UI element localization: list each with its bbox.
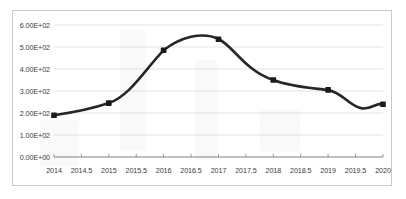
x-tick-label: 2014	[46, 166, 62, 175]
x-tick-label: 2015	[101, 166, 117, 175]
x-tick-label: 2018.5	[290, 166, 311, 175]
x-tick-label: 2018	[266, 166, 282, 175]
x-axis-labels: 2014 2014.5 2015 2015.5 2016 2016.5 2017…	[0, 0, 406, 199]
x-tick-label: 2019.5	[345, 166, 366, 175]
x-tick-label: 2016.5	[180, 166, 201, 175]
x-tick-label: 2016	[156, 166, 172, 175]
x-tick-label: 2017	[211, 166, 227, 175]
x-tick-label: 2015.5	[125, 166, 146, 175]
x-tick-label: 2014.5	[71, 166, 92, 175]
x-tick-label: 2019	[320, 166, 336, 175]
x-tick-label: 2017.5	[235, 166, 256, 175]
x-tick-label: 2020	[375, 166, 391, 175]
